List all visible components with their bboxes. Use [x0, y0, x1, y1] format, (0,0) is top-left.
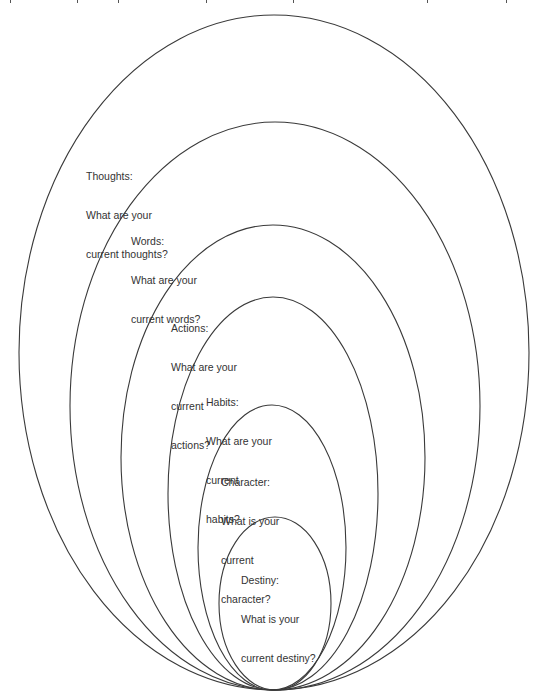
ring-title: Destiny:: [241, 574, 316, 587]
ring-question-line: current destiny?: [241, 652, 316, 665]
ring-question-line: What are your: [206, 435, 272, 448]
ring-title: Actions:: [171, 322, 237, 335]
ring-question-line: What are your: [131, 274, 200, 287]
ring-question-line: What is your: [241, 613, 316, 626]
ring-title: Thoughts:: [86, 170, 168, 183]
ring-title: Character:: [221, 476, 279, 489]
label-destiny: Destiny: What is your current destiny?: [241, 548, 316, 678]
ring-question-line: What is your: [221, 515, 279, 528]
ring-title: Habits:: [206, 396, 272, 409]
ring-title: Words:: [131, 235, 200, 248]
